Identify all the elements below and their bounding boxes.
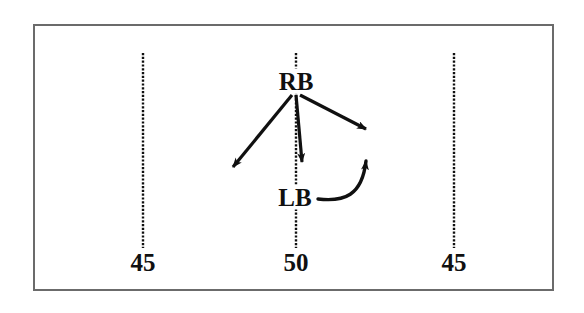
tick-label-left: 45 [131,250,156,275]
figure-root: RB LB 45 50 45 [0,0,584,313]
node-label-lb: LB [276,185,313,210]
rb-arrow-down-right-icon [300,95,366,129]
tick-label-right: 45 [442,250,467,275]
tick-label-center: 50 [284,250,309,275]
rb-arrow-down-left-icon [233,95,292,167]
node-label-rb: RB [277,69,316,94]
lb-arrow-curved-up-icon [318,161,366,200]
